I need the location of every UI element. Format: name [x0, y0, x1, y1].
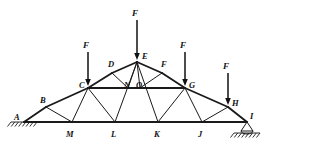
ground-hatch-stroke: [15, 122, 19, 127]
node-label-e: E: [142, 52, 148, 61]
truss-member-GH: [185, 88, 228, 107]
truss-member-GJ: [185, 88, 202, 122]
support-triangle-icon: [241, 122, 253, 131]
node-label-k: K: [154, 130, 160, 139]
ground-hatch-stroke: [234, 133, 238, 138]
node-label-b: B: [40, 96, 46, 105]
load-arrow-g: [182, 52, 188, 86]
truss-member-CM: [72, 88, 88, 122]
load-label-c: F: [83, 41, 89, 50]
node-label-m: M: [66, 130, 74, 139]
truss-member-BM: [46, 107, 72, 122]
support-i: [231, 122, 261, 138]
truss-member-CL: [88, 88, 115, 122]
ground-hatch-stroke: [253, 133, 256, 138]
ground-hatch-stroke: [238, 133, 242, 138]
load-label-g: F: [180, 41, 186, 50]
node-label-c: C: [79, 81, 85, 90]
load-arrow-head: [182, 79, 188, 86]
node-label-a: A: [14, 113, 20, 122]
node-label-h: H: [232, 99, 239, 108]
load-arrow-c: [85, 52, 91, 86]
truss-member-HI: [228, 107, 247, 122]
load-arrow-head: [134, 53, 140, 60]
node-label-d: D: [108, 60, 114, 69]
truss-member-HJ: [202, 107, 228, 122]
load-label-h: F: [223, 62, 229, 71]
truss-member-FG: [162, 73, 185, 88]
node-label-i: I: [250, 112, 253, 121]
load-arrow-head: [85, 79, 91, 86]
node-label-g: G: [189, 81, 195, 90]
ground-hatch-stroke: [8, 122, 12, 127]
truss-members-group: [24, 62, 247, 122]
truss-member-GK: [158, 88, 185, 122]
load-arrow-h: [225, 73, 231, 105]
ground-hatch-stroke: [257, 133, 261, 138]
node-label-f: F: [161, 60, 167, 69]
truss-member-CD: [88, 73, 112, 88]
truss-member-BC: [46, 88, 88, 107]
node-label-o: O: [136, 81, 142, 90]
load-arrow-e: [134, 20, 140, 60]
truss-diagram-figure: ABCDEFGHIJKLMNO FFFF: [0, 0, 317, 152]
ground-hatch-stroke: [19, 122, 23, 127]
node-label-l: L: [111, 130, 116, 139]
ground-hatch-stroke: [11, 122, 15, 127]
node-label-j: J: [198, 130, 202, 139]
support-a: [8, 122, 38, 127]
node-label-n: N: [124, 81, 130, 90]
truss-member-EK: [137, 62, 158, 122]
load-arrow-head: [225, 98, 231, 105]
load-label-e: F: [132, 9, 138, 18]
ground-hatch-stroke: [231, 133, 235, 138]
truss-member-AB: [24, 107, 46, 122]
supports-group: [8, 122, 261, 138]
